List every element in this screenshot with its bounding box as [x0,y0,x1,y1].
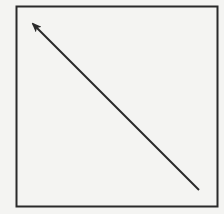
diagram-canvas [0,0,224,214]
diagonal-arrow [33,24,199,190]
